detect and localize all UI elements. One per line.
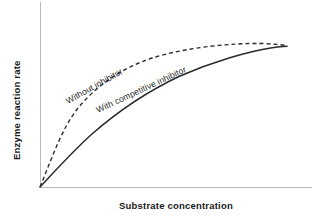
enzyme-kinetics-chart: Enzyme reaction rate Substrate concentra… (0, 0, 328, 220)
y-axis-title: Enzyme reaction rate (11, 60, 22, 160)
x-axis-title: Substrate concentration (119, 200, 233, 211)
